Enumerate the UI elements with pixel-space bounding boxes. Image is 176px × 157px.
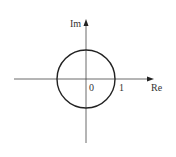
imaginary-axis-arrow-icon — [84, 19, 89, 26]
unit-label: 1 — [119, 82, 124, 93]
real-axis-arrow-icon — [147, 77, 154, 82]
imaginary-axis-label: Im — [70, 18, 81, 29]
real-axis-label: Re — [151, 82, 163, 93]
origin-label: 0 — [89, 82, 94, 93]
complex-plane-diagram: Im Re 0 1 — [0, 0, 176, 157]
